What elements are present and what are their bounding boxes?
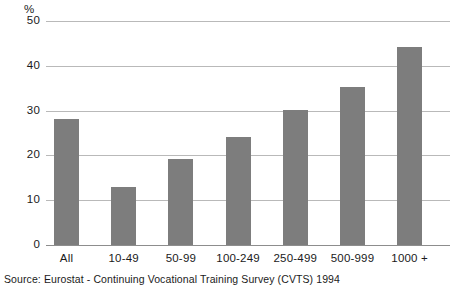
bar — [226, 137, 251, 245]
y-axis-tick-label: 30 — [10, 105, 40, 117]
bar — [283, 110, 308, 245]
bar — [340, 87, 365, 245]
plot-area — [46, 21, 450, 245]
bar — [111, 187, 136, 245]
bar — [54, 119, 79, 245]
bar — [397, 47, 422, 245]
y-axis-tick-labels: 01020304050 — [0, 21, 40, 245]
source-note: Source: Eurostat - Continuing Vocational… — [4, 273, 340, 285]
x-axis-baseline — [46, 245, 450, 246]
y-axis-tick-label: 20 — [10, 149, 40, 161]
y-axis-tick-label: 10 — [10, 194, 40, 206]
x-axis-tick-label: 1000 + — [370, 252, 450, 264]
gridline — [46, 66, 450, 67]
bar — [168, 159, 193, 245]
y-axis-tick-label: 0 — [10, 239, 40, 251]
gridline — [46, 111, 450, 112]
y-axis-tick-label: 50 — [10, 15, 40, 27]
y-axis-tick-label: 40 — [10, 60, 40, 72]
bar-chart-figure: % 01020304050 All10-4950-99100-249250-49… — [0, 0, 461, 293]
gridline — [46, 21, 450, 22]
